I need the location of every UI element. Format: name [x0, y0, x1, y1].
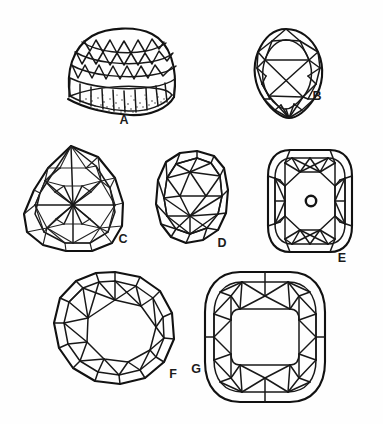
- figure-c-radial-rose-cut: C: [24, 146, 128, 251]
- gemstone-cuts-plate: A: [0, 0, 383, 424]
- figure-d-oval-brilliant: D: [156, 151, 228, 250]
- figure-artwork: A: [0, 0, 383, 424]
- figure-a-dome-perspective: A: [68, 29, 176, 128]
- figure-g-cushion-square-table: G: [191, 272, 325, 402]
- figure-f-round-brilliant: F: [54, 272, 177, 384]
- figure-a-label: A: [119, 113, 128, 127]
- figure-g-label: G: [191, 362, 201, 376]
- figure-c-upper-left-star: [35, 168, 64, 205]
- figure-b-label: B: [312, 89, 321, 103]
- figure-e-cushion-with-culet: E: [268, 150, 352, 265]
- figure-c-label: C: [118, 232, 127, 246]
- figure-e-culet-circle: [306, 196, 316, 206]
- figure-b-pear-brilliant: B: [255, 29, 323, 118]
- figure-c-upper-right-star: [82, 157, 115, 205]
- figure-d-label: D: [217, 236, 226, 250]
- figure-f-label: F: [169, 367, 177, 381]
- figure-e-label: E: [338, 251, 346, 265]
